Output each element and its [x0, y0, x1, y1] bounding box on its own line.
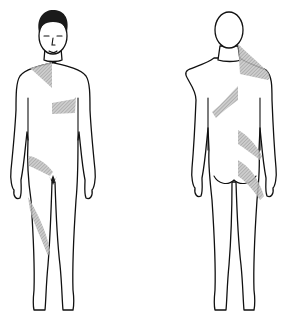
back-head: [215, 12, 243, 48]
back-figure: [186, 12, 277, 310]
front-figure: [11, 10, 96, 310]
body-diagram: [0, 0, 285, 325]
